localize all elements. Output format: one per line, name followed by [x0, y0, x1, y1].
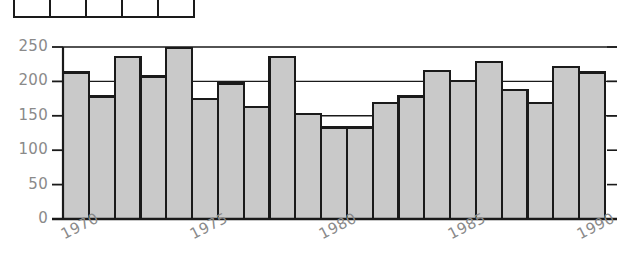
bar	[553, 67, 579, 219]
bar	[295, 114, 321, 219]
bar	[218, 83, 244, 219]
bar	[373, 103, 399, 219]
bar	[269, 57, 295, 219]
bar	[89, 97, 115, 219]
bar	[115, 57, 141, 219]
bar	[579, 72, 605, 219]
bar	[399, 97, 425, 219]
bar-chart: 050100150200250 19701975198019851990	[0, 0, 617, 259]
bar	[424, 71, 450, 219]
chart-page: 050100150200250 19701975198019851990	[0, 0, 617, 259]
bar	[63, 72, 89, 219]
y-tick-label: 0	[38, 209, 48, 227]
bar	[476, 62, 502, 219]
y-tick-label: 50	[28, 175, 48, 193]
bar	[347, 127, 373, 219]
bar	[450, 81, 476, 219]
bar	[140, 77, 166, 219]
bar	[166, 48, 192, 219]
y-tick-label: 100	[18, 140, 48, 158]
bar	[192, 99, 218, 219]
bar	[502, 90, 528, 219]
bars	[63, 48, 605, 219]
y-tick-label: 200	[18, 71, 48, 89]
y-tick-label: 150	[18, 106, 48, 124]
bar	[244, 107, 270, 219]
bar	[321, 127, 347, 219]
bar	[528, 103, 554, 219]
y-tick-label: 250	[18, 37, 48, 55]
